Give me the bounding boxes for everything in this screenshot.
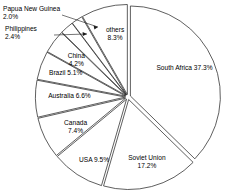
pie-label-usa: USA 9.5% [79, 156, 109, 163]
pie-label-others: others8.3% [106, 26, 125, 41]
pie-label-papua-new-guinea: Papua New Guinea2.0% [3, 5, 61, 20]
pie-chart-canvas: South Africa 37.3%Soviet Union17.2%USA 9… [0, 0, 226, 195]
pie-chart-figure: South Africa 37.3%Soviet Union17.2%USA 9… [0, 0, 226, 195]
pie-label-australia: Australia 6.6% [48, 92, 91, 99]
pie-label-brazil: Brazil 5.1% [49, 69, 82, 76]
pie-label-south-africa: South Africa 37.3% [156, 64, 212, 71]
pie-label-philippines: Philippines2.4% [5, 25, 38, 40]
pie-label-china: China4.2% [68, 52, 86, 67]
